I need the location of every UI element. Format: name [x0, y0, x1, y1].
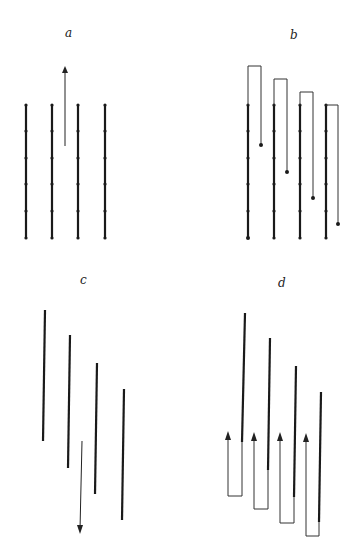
panel-label-b: b	[290, 28, 298, 42]
figure-canvas: a b	[0, 0, 354, 554]
panel-label-d: d	[278, 276, 286, 290]
panel-a: a	[24, 26, 106, 240]
panel-label-c: c	[80, 273, 87, 287]
up-arrowheads	[225, 431, 309, 442]
arrowhead-icon	[225, 431, 231, 440]
down-arrow	[80, 441, 82, 530]
slanted-rods	[43, 310, 124, 520]
hook-paths	[228, 436, 319, 536]
panel-b: b	[246, 28, 340, 240]
arrowhead-icon	[62, 66, 68, 73]
panel-d: d	[225, 276, 321, 536]
arrowhead-icon	[277, 432, 283, 441]
arrowhead-icon	[251, 432, 257, 441]
arrowhead-icon	[77, 525, 83, 534]
arrowhead-icon	[303, 433, 309, 442]
panel-label-a: a	[65, 26, 72, 40]
panel-c: c	[43, 273, 124, 534]
